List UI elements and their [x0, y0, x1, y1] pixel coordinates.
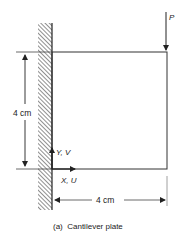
y-axis-label: Y, V	[56, 148, 71, 157]
fixed-wall-support	[38, 23, 52, 210]
load-label: P	[169, 13, 175, 22]
height-dimension-label: 4 cm	[13, 108, 31, 118]
cantilever-plate-diagram: 4 cm P Y, V X, U 4 cm (a) Cantilever pla…	[0, 0, 187, 244]
figure-caption: (a) Cantilever plate	[53, 222, 123, 231]
x-axis-label: X, U	[60, 176, 77, 185]
width-dimension-label: 4 cm	[96, 195, 114, 205]
